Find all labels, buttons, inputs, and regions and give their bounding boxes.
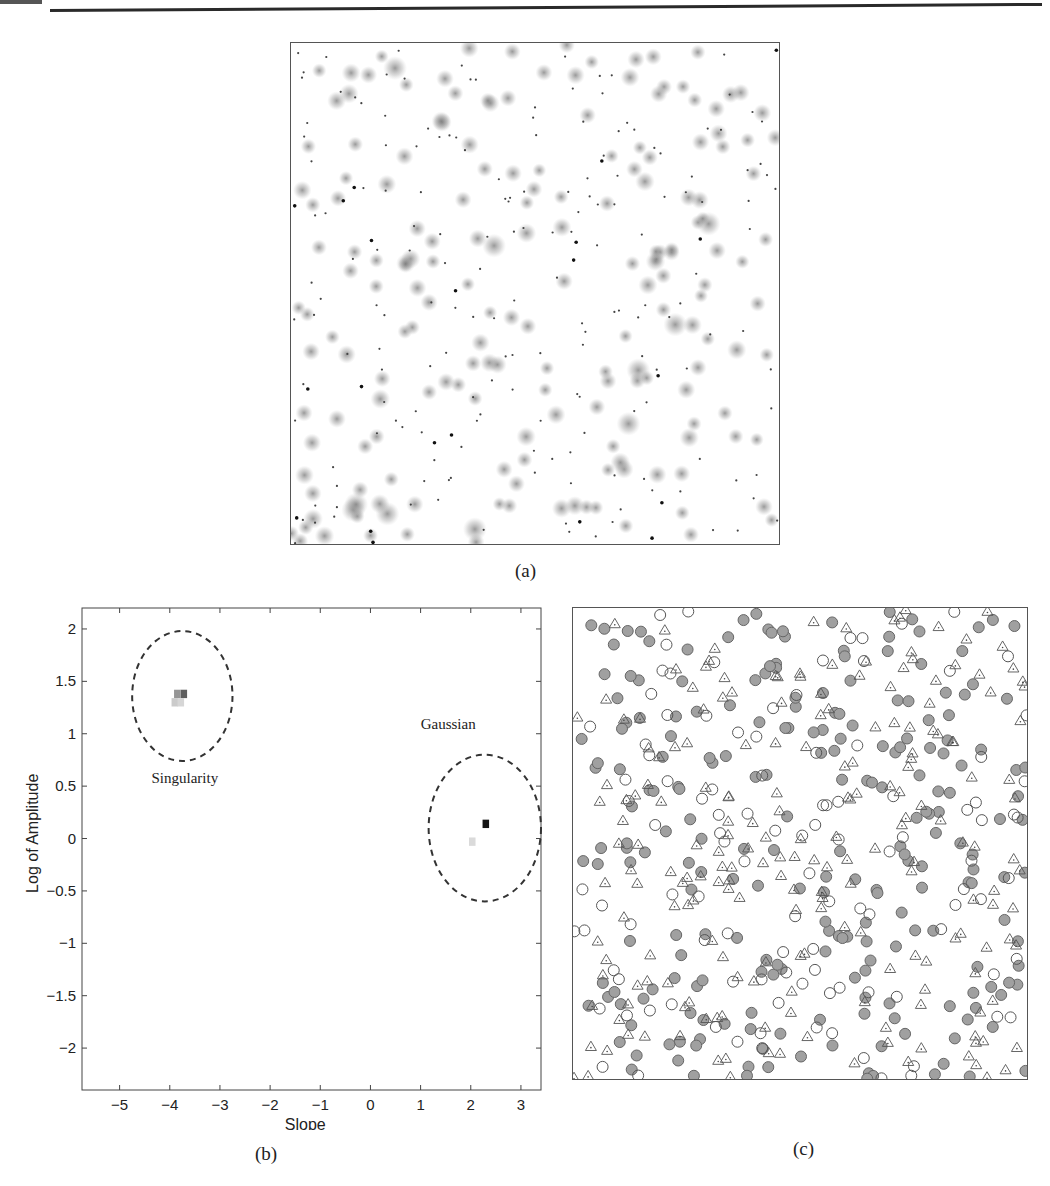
triangle-marker: [1000, 1064, 1011, 1073]
open-circle-marker: [778, 947, 789, 958]
triangle-marker: [971, 1059, 982, 1068]
triangle-center-dot: [1016, 1048, 1018, 1050]
singularity-dot: [616, 175, 618, 177]
filled-circle-marker: [899, 849, 910, 860]
triangle-center-dot: [779, 811, 781, 813]
filled-circle-marker: [750, 675, 761, 686]
singularity-dot: [301, 77, 303, 79]
filled-circle-marker: [968, 987, 979, 998]
gaussian-blob: [727, 340, 747, 360]
filled-circle-marker: [720, 751, 731, 762]
histogram-cell: [178, 698, 185, 706]
triangle-marker: [921, 956, 932, 965]
gaussian-blob: [645, 48, 662, 65]
singularity-dot: [385, 144, 387, 146]
triangle-marker: [870, 843, 881, 852]
gaussian-blob: [347, 136, 363, 152]
singularity-dot: [774, 188, 776, 190]
triangle-marker: [775, 1048, 786, 1057]
triangle-marker: [687, 682, 698, 691]
triangle-center-dot: [747, 848, 749, 850]
gaussian-blob: [732, 84, 750, 102]
triangle-marker: [906, 647, 917, 656]
triangle-marker: [851, 788, 862, 797]
singularity-dot: [701, 201, 703, 203]
triangle-center-dot: [974, 1036, 976, 1038]
gaussian-blob: [468, 391, 483, 406]
filled-circle-marker: [682, 644, 693, 655]
filled-circle-marker: [910, 925, 921, 936]
singularity-dot: [668, 316, 670, 318]
gaussian-blob: [617, 412, 641, 436]
gaussian-blob: [295, 404, 312, 421]
triangle-marker: [839, 921, 850, 930]
filled-circle-marker: [949, 1033, 960, 1044]
triangle-marker: [573, 712, 583, 721]
open-circle-marker: [597, 900, 608, 911]
singularity-dot: [498, 178, 500, 180]
gaussian-blob: [740, 133, 755, 148]
open-circle-marker: [845, 633, 856, 644]
triangle-center-dot: [688, 1002, 690, 1004]
y-tick-label: 1.5: [55, 672, 76, 689]
gaussian-blob: [425, 254, 440, 269]
triangle-marker: [831, 831, 842, 840]
singularity-dot: [483, 529, 485, 531]
triangle-center-dot: [1009, 939, 1011, 941]
open-circle-marker: [683, 608, 694, 617]
header-corner-block: [0, 0, 42, 4]
triangle-marker: [933, 621, 944, 630]
gaussian-blob: [384, 472, 399, 487]
gaussian-blob: [618, 329, 632, 343]
gaussian-blob: [679, 428, 699, 448]
singularity-dot: [570, 231, 572, 233]
triangle-marker: [656, 796, 667, 805]
open-circle-marker: [715, 828, 726, 839]
gaussian-blob: [408, 220, 426, 238]
triangle-marker: [839, 761, 850, 770]
singularity-dot: [415, 145, 417, 147]
open-circle-marker: [944, 665, 955, 676]
gaussian-blob: [755, 498, 773, 516]
triangle-marker: [910, 950, 921, 959]
open-circle-marker: [597, 1061, 608, 1072]
gaussian-blob: [700, 332, 715, 347]
singularity-dot: [415, 410, 417, 412]
open-circle-marker: [790, 911, 801, 922]
triangle-center-dot: [686, 878, 688, 880]
gaussian-blob: [767, 129, 779, 146]
filled-circle-marker: [896, 907, 907, 918]
triangle-center-dot: [907, 767, 909, 769]
gaussian-blob: [552, 218, 571, 237]
triangle-center-dot: [885, 1028, 887, 1030]
triangle-center-dot: [791, 992, 793, 994]
open-circle-marker: [728, 976, 739, 987]
triangle-center-dot: [700, 876, 702, 878]
open-circle-marker: [970, 797, 981, 808]
filled-circle-marker: [996, 989, 1007, 1000]
singularity-dot: [770, 368, 772, 370]
filled-circle-marker: [884, 998, 895, 1009]
triangle-marker: [985, 687, 996, 696]
filled-circle-marker: [1001, 693, 1012, 704]
filled-circle-marker: [616, 723, 627, 734]
y-tick-label: 1: [68, 725, 76, 742]
filled-circle-marker: [816, 747, 827, 758]
triangle-center-dot: [605, 699, 607, 701]
singularity-dot: [362, 187, 364, 189]
triangle-center-dot: [813, 860, 815, 862]
singularity-dot: [556, 277, 558, 279]
gaussian-blob: [625, 256, 641, 272]
singularity-dot: [656, 374, 660, 378]
open-circle-marker: [817, 655, 828, 666]
triangle-center-dot: [745, 745, 747, 747]
gaussian-blob: [546, 405, 565, 424]
triangle-center-dot: [986, 1077, 988, 1079]
open-circle-marker: [797, 978, 808, 989]
triangle-center-dot: [903, 668, 905, 670]
singularity-dot: [336, 485, 338, 487]
singularity-dot: [753, 497, 755, 499]
singularity-dot: [698, 237, 702, 241]
triangle-center-dot: [637, 845, 639, 847]
filled-circle-marker: [903, 696, 914, 707]
